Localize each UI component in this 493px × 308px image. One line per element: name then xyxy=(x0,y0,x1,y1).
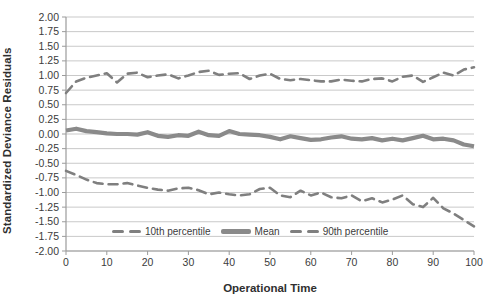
y-tick-label: 0.00 xyxy=(39,128,60,140)
y-tick-label: 1.50 xyxy=(39,40,60,52)
dashed-line-swatch xyxy=(112,230,141,233)
y-tick-label: 1.00 xyxy=(39,69,60,81)
series-line-90th-percentile xyxy=(66,67,474,93)
y-tick-label: 1.75 xyxy=(39,25,60,37)
y-tick-label: -1.50 xyxy=(35,215,59,227)
y-tick-label: 0.75 xyxy=(39,84,60,96)
x-tick-label: 40 xyxy=(223,256,235,268)
legend-item-mean: Mean xyxy=(221,226,280,237)
legend-label: 90th percentile xyxy=(323,226,389,237)
y-tick-label: -0.25 xyxy=(35,142,59,154)
x-tick-label: 0 xyxy=(63,256,69,268)
x-tick-label: 30 xyxy=(183,256,195,268)
x-tick-label: 10 xyxy=(101,256,113,268)
legend-item-90th-percentile: 90th percentile xyxy=(290,226,389,237)
x-tick-label: 70 xyxy=(346,256,358,268)
y-tick-label: 0.25 xyxy=(39,113,60,125)
y-tick-label: -0.75 xyxy=(35,171,59,183)
y-tick-label: -0.50 xyxy=(35,157,59,169)
solid-line-swatch xyxy=(221,229,251,234)
legend-item-10th-percentile: 10th percentile xyxy=(112,226,211,237)
y-axis-title: Standardized Deviance Residuals xyxy=(1,42,13,240)
y-tick-label: -1.00 xyxy=(35,186,59,198)
y-tick-label: 2.00 xyxy=(39,11,60,23)
y-tick-label: -2.00 xyxy=(35,245,59,257)
x-tick-label: 50 xyxy=(264,256,276,268)
y-tick-label: 0.50 xyxy=(39,98,60,110)
dashed-line-swatch xyxy=(290,230,319,233)
series-line-mean xyxy=(66,129,474,147)
x-tick-label: 90 xyxy=(427,256,439,268)
x-tick-label: 100 xyxy=(465,256,483,268)
x-tick-label: 20 xyxy=(142,256,154,268)
plot-area: 2.001.751.501.251.000.750.500.250.00-0.2… xyxy=(0,0,493,308)
legend: 10th percentile Mean 90th percentile xyxy=(112,224,388,238)
chart-container: 2.001.751.501.251.000.750.500.250.00-0.2… xyxy=(0,0,493,308)
y-tick-label: -1.25 xyxy=(35,201,59,213)
x-axis-title: Operational Time xyxy=(66,282,474,294)
series-line-10th-percentile xyxy=(66,171,474,227)
legend-label: Mean xyxy=(255,226,280,237)
x-tick-label: 80 xyxy=(387,256,399,268)
x-tick-label: 60 xyxy=(305,256,317,268)
y-tick-label: -1.75 xyxy=(35,230,59,242)
legend-label: 10th percentile xyxy=(145,226,211,237)
y-tick-label: 1.25 xyxy=(39,54,60,66)
